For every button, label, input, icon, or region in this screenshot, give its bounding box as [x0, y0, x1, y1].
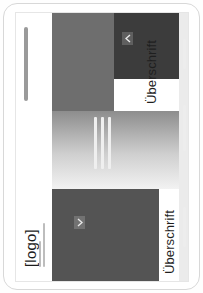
section-2-heading: Überschrift: [161, 210, 176, 274]
placeholder-line: [183, 39, 186, 69]
rule-line: [108, 117, 111, 169]
rotated-page-canvas: [logo] Überschrift: [16, 13, 188, 281]
section-1-heading: Überschrift: [143, 40, 158, 104]
hero-block-mid: [52, 13, 114, 111]
screenshot-root: [logo] Überschrift: [0, 0, 203, 293]
rule-line: [94, 117, 97, 169]
placeholder-line: [183, 207, 186, 247]
chevron-down-icon[interactable]: [74, 216, 85, 229]
header-meta-line-1: [39, 241, 41, 267]
website-wireframe-page: [logo] Überschrift: [16, 13, 188, 281]
header-meta-lines: [39, 223, 47, 267]
feature-rule-lines: [94, 117, 111, 169]
page-header: [logo]: [16, 13, 52, 281]
top-navigation-bar[interactable]: [24, 27, 28, 101]
section-2-caption: Überschrift: [159, 189, 179, 281]
placeholder-line: [183, 105, 186, 151]
logo-placeholder[interactable]: [logo]: [22, 229, 39, 267]
rule-line: [101, 117, 104, 169]
header-meta-line-2: [43, 223, 45, 267]
chevron-up-icon[interactable]: [122, 32, 133, 45]
feature-gradient-block: [52, 111, 179, 189]
section-1-caption: Überschrift: [114, 79, 188, 111]
content-block-grid: Überschrift: [52, 13, 179, 281]
